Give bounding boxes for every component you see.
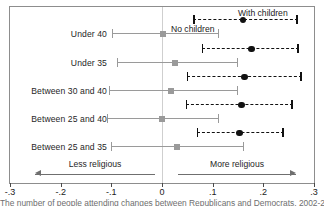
annotation-line — [35, 174, 155, 175]
interval-cap-high — [243, 142, 244, 151]
point-marker — [241, 74, 248, 81]
x-axis-tick-label: .3 — [310, 187, 318, 197]
interval-cap-high — [218, 114, 219, 123]
interval-with-children-row-2 — [187, 71, 302, 82]
annotation-less-religious-label: Less religious — [35, 159, 155, 169]
row-label-2: Between 30 and 40 — [31, 86, 107, 96]
annotation-more-religious: More religious — [178, 160, 296, 180]
arrow-right-icon — [290, 170, 296, 176]
point-marker — [168, 88, 174, 94]
interval-cap-high — [237, 58, 238, 67]
annotation-less-religious: Less religious — [35, 160, 155, 180]
x-axis-tick-label: -.3 — [5, 187, 16, 197]
point-marker — [159, 116, 165, 122]
interval-cap-low — [197, 128, 198, 137]
interval-cap-low — [187, 72, 188, 81]
arrow-left-icon — [35, 170, 41, 176]
interval-cap-high — [296, 15, 297, 24]
point-marker — [248, 46, 255, 53]
interval-cap-high — [218, 29, 219, 38]
annotation-more-religious-label: More religious — [178, 159, 296, 169]
interval-cap-low — [109, 86, 110, 95]
point-marker — [160, 31, 166, 37]
interval-cap-low — [107, 114, 108, 123]
interval-cap-high — [282, 128, 283, 137]
row-label-3: Between 25 and 40 — [31, 114, 107, 124]
interval-cap-low — [117, 58, 118, 67]
interval-cap-low — [186, 100, 187, 109]
interval-cap-high — [291, 100, 292, 109]
interval-with-children-row-4 — [197, 127, 284, 138]
interval-cap-low — [193, 15, 194, 24]
interval-cap-high — [300, 72, 301, 81]
interval-no-children-row-2 — [109, 85, 238, 96]
interval-cap-high — [237, 86, 238, 95]
interval-with-children-row-0 — [193, 14, 297, 25]
annotation-line — [178, 174, 296, 175]
figure-caption: The number of people attending changes b… — [0, 199, 324, 206]
x-axis-tick-label: .1 — [209, 187, 217, 197]
interval-no-children-row-1 — [117, 57, 238, 68]
point-marker — [174, 144, 180, 150]
interval-with-children-row-3 — [186, 99, 293, 110]
row-label-0: Under 40 — [71, 29, 107, 39]
interval-no-children-row-3 — [107, 113, 218, 124]
row-label-4: Between 25 and 35 — [31, 142, 107, 152]
interval-cap-low — [202, 44, 203, 53]
interval-cap-low — [112, 29, 113, 38]
x-axis-tick-label: -.2 — [55, 187, 66, 197]
point-marker — [240, 17, 247, 24]
x-axis-tick-label: .2 — [260, 187, 268, 197]
point-marker — [238, 102, 245, 109]
figure: With children No children Under 40 Under… — [0, 0, 324, 206]
point-marker — [172, 60, 178, 66]
interval-with-children-row-1 — [202, 43, 299, 54]
interval-cap-high — [297, 44, 298, 53]
interval-cap-low — [111, 142, 112, 151]
x-axis-tick-label: -.1 — [106, 187, 117, 197]
interval-no-children-row-4 — [111, 141, 243, 152]
point-marker — [236, 130, 243, 137]
interval-no-children-row-0 — [112, 28, 218, 39]
x-axis-tick-label: 0 — [159, 187, 164, 197]
row-label-1: Under 35 — [71, 58, 107, 68]
